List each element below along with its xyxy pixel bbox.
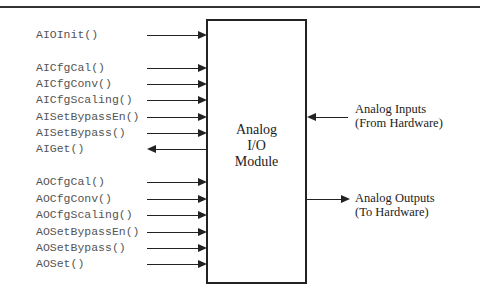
function-label: AOCfgCal() [36,175,105,189]
arrow-right-icon [198,195,207,203]
analog-inputs-label: Analog Inputs (From Hardware) [355,102,443,130]
function-label: AIOInit() [36,28,98,42]
function-arrow [147,215,198,216]
arrow-right-icon [198,64,207,72]
analog-outputs-arrowhead-icon [341,195,350,203]
function-label: AISetBypassEn() [36,110,140,124]
analog-outputs-arrow [306,199,344,200]
function-arrow [147,133,198,134]
function-arrow [147,117,198,118]
function-label: AOSetBypassEn() [36,225,140,239]
arrow-left-icon [147,145,156,153]
function-label: AOSet() [36,257,84,271]
function-label: AICfgScaling() [36,93,133,107]
module-label-line2: I/O [206,138,307,154]
module-label-line3: Module [206,154,307,170]
function-arrow [147,199,198,200]
function-arrow [147,84,198,85]
analog-outputs-label: Analog Outputs (To Hardware) [355,191,435,219]
arrow-right-icon [198,178,207,186]
function-label: AICfgCal() [36,61,105,75]
function-label: AISetBypass() [36,126,126,140]
function-arrow [147,264,198,265]
top-rule [0,6,480,8]
function-arrow [147,100,198,101]
function-arrow [147,248,198,249]
function-arrow [147,232,198,233]
arrow-right-icon [198,96,207,104]
function-arrow [147,35,198,36]
arrow-right-icon [198,244,207,252]
arrow-right-icon [198,31,207,39]
arrow-right-icon [198,113,207,121]
module-label: Analog I/O Module [206,122,307,170]
module-label-line1: Analog [206,122,307,138]
arrow-right-icon [198,211,207,219]
function-label: AICfgConv() [36,77,112,91]
analog-outputs-line1: Analog Outputs [355,191,435,205]
analog-inputs-line2: (From Hardware) [355,116,443,130]
arrow-right-icon [198,260,207,268]
function-label: AOSetBypass() [36,241,126,255]
function-arrow [156,149,206,150]
analog-outputs-line2: (To Hardware) [355,205,435,219]
analog-inputs-arrowhead-icon [307,113,316,121]
function-arrow [147,182,198,183]
function-label: AOCfgScaling() [36,208,133,222]
arrow-right-icon [198,228,207,236]
function-label: AOCfgConv() [36,192,112,206]
function-label: AIGet() [36,142,84,156]
arrow-right-icon [198,80,207,88]
analog-inputs-line1: Analog Inputs [355,102,443,116]
arrow-right-icon [198,129,207,137]
function-arrow [147,68,198,69]
analog-inputs-arrow [316,117,348,118]
